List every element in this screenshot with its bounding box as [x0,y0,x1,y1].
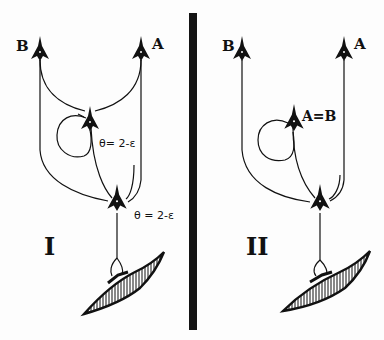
motor-neuron-icon [107,184,126,211]
input-label-B: B [16,37,29,55]
neural-circuit-diagram: B A θ= 2-ε θ = 2-ε I B A A=B II [0,0,384,340]
interneuron-label: A=B [301,108,337,124]
motor-neuron-icon [310,184,329,211]
input-neuron-B-icon [31,36,49,61]
muscle-fiber-icon [84,252,164,314]
interneuron-threshold-label: θ= 2-ε [99,137,135,150]
panel-divider [189,13,197,330]
input-neuron-A-icon [132,36,150,61]
muscle-fiber-icon [283,251,370,311]
panel-label-I: I [44,232,55,261]
panel-II: B A A=B II [222,35,370,311]
panel-label-II: II [246,232,268,261]
interneuron-icon [81,106,99,131]
input-neuron-A-icon [335,36,353,61]
input-label-A: A [151,35,164,53]
input-label-A: A [353,35,366,53]
input-neuron-B-icon [233,36,251,61]
interneuron-icon [284,104,303,131]
input-label-B: B [222,37,235,55]
panel-I: B A θ= 2-ε θ = 2-ε I [16,35,174,314]
motor-threshold-label: θ = 2-ε [134,209,174,222]
